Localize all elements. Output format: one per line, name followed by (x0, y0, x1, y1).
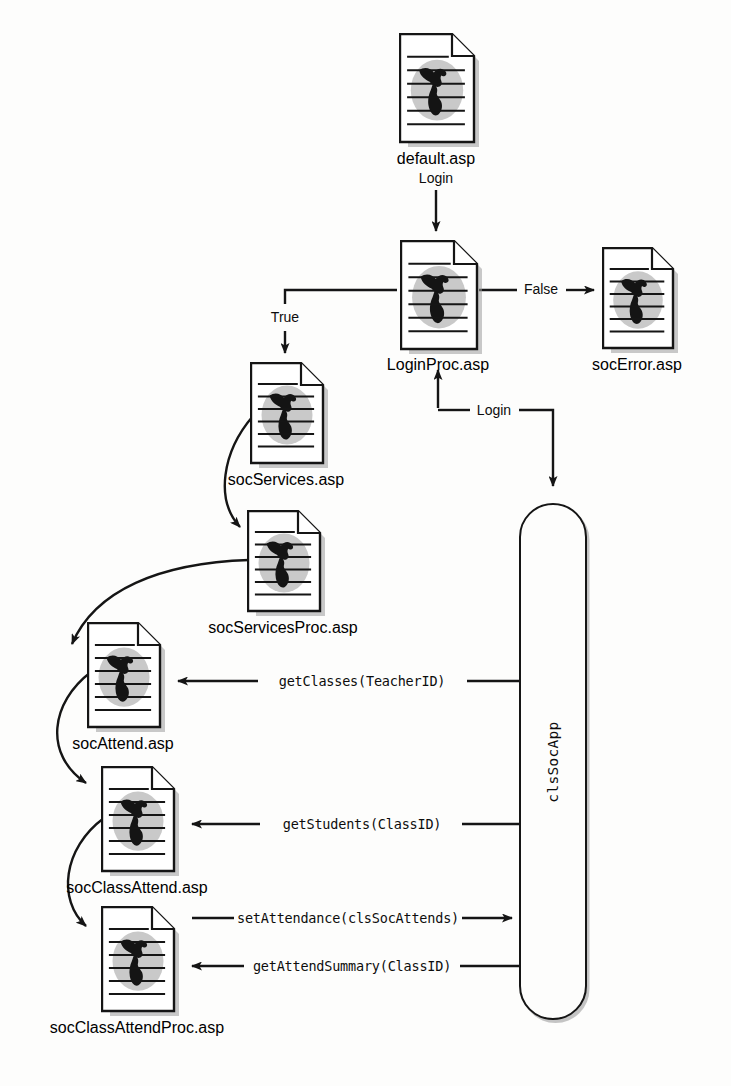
edge-socclassattend-to-proc (68, 818, 104, 926)
node-label-socservices: socServices.asp (228, 471, 345, 489)
document-node-socclassattendproc[interactable] (101, 906, 179, 1016)
web-page-document-icon (250, 362, 328, 468)
edge-loginproc-true-a (285, 290, 397, 304)
edge-label-get-attend-summary: getAttendSummary(ClassID) (250, 958, 454, 974)
edge-label-get-students: getStudents(ClassID) (280, 816, 445, 832)
document-node-socclassattend[interactable] (101, 766, 179, 876)
component-clssocapp[interactable]: clsSocApp (519, 503, 587, 1020)
node-label-socattend: socAttend.asp (72, 735, 173, 753)
edge-label-login-top: Login (415, 170, 457, 186)
web-page-document-icon (399, 33, 479, 147)
web-page-document-icon (101, 906, 179, 1016)
web-page-document-icon (87, 622, 165, 732)
document-node-socservicesproc[interactable] (247, 510, 325, 616)
document-node-socerror[interactable] (602, 247, 678, 353)
edge-label-set-attendance: setAttendance(clsSocAttends) (234, 910, 462, 926)
node-label-socservicesproc: socServicesProc.asp (208, 619, 357, 637)
web-page-document-icon (400, 240, 482, 354)
node-label-socerror: socError.asp (592, 356, 682, 374)
node-label-socclassattendproc: socClassAttendProc.asp (50, 1019, 224, 1037)
document-node-socattend[interactable] (87, 622, 165, 732)
edge-login-return-down (519, 410, 553, 486)
node-label-default: default.asp (397, 150, 475, 168)
edge-label-true: True (267, 309, 303, 325)
edge-label-false: False (520, 281, 562, 297)
node-label-socclassattend: socClassAttend.asp (66, 879, 207, 897)
component-clssocapp-label: clsSocApp (545, 721, 561, 802)
edge-socattend-to-socclassattend (57, 672, 91, 783)
document-node-socservices[interactable] (250, 362, 328, 468)
web-page-document-icon (101, 766, 179, 876)
edge-label-login-return: Login (473, 402, 515, 418)
diagram-canvas: clsSocApp default.aspLogin LoginProc.asp… (0, 0, 731, 1086)
web-page-document-icon (602, 247, 678, 353)
node-label-loginproc: LoginProc.asp (387, 356, 489, 374)
document-node-loginproc[interactable] (400, 240, 482, 354)
document-node-default[interactable] (399, 33, 479, 147)
edge-label-get-classes: getClasses(TeacherID) (276, 673, 448, 689)
web-page-document-icon (247, 510, 325, 616)
